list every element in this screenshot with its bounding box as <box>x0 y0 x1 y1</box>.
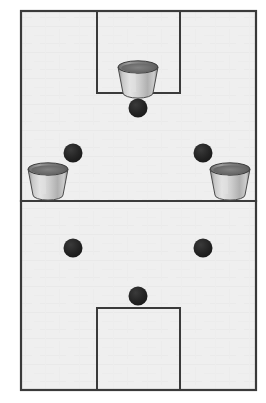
ball-lower-right <box>194 239 213 258</box>
court-diagram <box>0 0 266 403</box>
ball-upper-right <box>194 144 213 163</box>
bucket-right-side-opening <box>213 165 247 174</box>
bucket-top-center <box>118 61 158 98</box>
ball-top-center <box>129 99 148 118</box>
bucket-left-side-opening <box>31 165 65 174</box>
bucket-top-center-opening <box>121 63 155 72</box>
bucket-right-side <box>210 163 250 200</box>
ball-bottom-center <box>129 287 148 306</box>
ball-upper-left <box>64 144 83 163</box>
bucket-left-side <box>28 163 68 200</box>
diagram-canvas <box>0 0 266 403</box>
ball-lower-left <box>64 239 83 258</box>
